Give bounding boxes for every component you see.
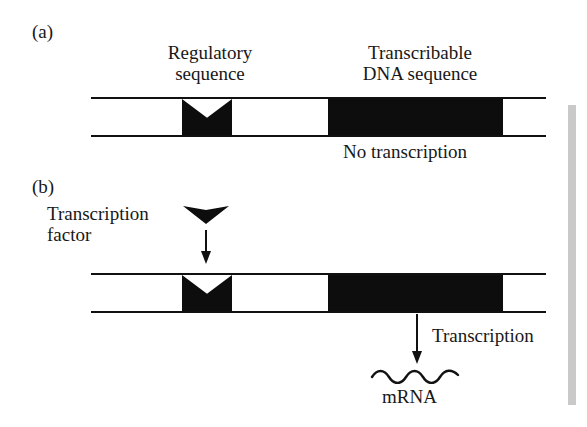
mrna-label: mRNA bbox=[382, 386, 437, 407]
transcribable-dna-box-active bbox=[328, 275, 503, 311]
regulatory-sequence-label-line2: sequence bbox=[140, 63, 280, 84]
transcribable-dna-box bbox=[328, 99, 503, 135]
dna-rail-bottom bbox=[91, 311, 546, 313]
arrow-head bbox=[412, 351, 422, 364]
transcription-factor-label-line1: Transcription bbox=[47, 203, 149, 224]
arrow-shaft bbox=[205, 230, 207, 252]
arrow-head bbox=[201, 251, 211, 264]
transcribable-sequence-label-line2: DNA sequence bbox=[330, 63, 510, 84]
transcribable-sequence-label-line1: Transcribable bbox=[330, 42, 510, 63]
regulatory-sequence-box bbox=[182, 99, 232, 135]
transcription-regulation-figure: (a) Regulatory sequence Transcribable DN… bbox=[0, 0, 587, 427]
regulatory-sequence-box-bound bbox=[182, 275, 232, 311]
transcription-arrow-icon bbox=[407, 314, 427, 364]
dna-duplex-panel-a bbox=[91, 97, 546, 137]
transcription-factor-label-line2: factor bbox=[47, 224, 91, 245]
panel-b-label: (b) bbox=[32, 176, 54, 197]
no-transcription-status: No transcription bbox=[343, 141, 467, 162]
page-edge-artifact bbox=[568, 105, 576, 405]
dna-duplex-panel-b bbox=[91, 273, 546, 313]
dna-rail-bottom bbox=[91, 135, 546, 137]
arrow-shaft bbox=[416, 314, 418, 352]
transcription-process-label: Transcription bbox=[432, 325, 534, 346]
binding-arrow-icon bbox=[196, 230, 216, 264]
transcription-factor-icon bbox=[183, 206, 229, 224]
mrna-strand-icon bbox=[370, 366, 462, 384]
regulatory-sequence-label-line1: Regulatory bbox=[140, 42, 280, 63]
panel-a-label: (a) bbox=[32, 21, 53, 42]
